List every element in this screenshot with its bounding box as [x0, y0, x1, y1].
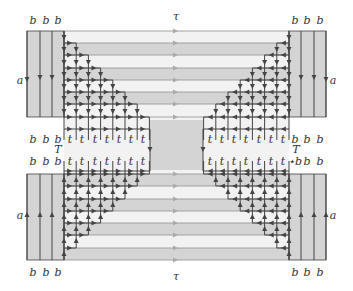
label-b: b [42, 156, 49, 167]
label-b: b [42, 134, 49, 145]
label-t: t [68, 134, 72, 145]
label-b-top: b [291, 15, 298, 26]
label-a-left-top: a [17, 75, 24, 86]
label-tau-bottom: τ [173, 271, 179, 282]
label-t: t [220, 156, 224, 167]
diagram: τ τ a a a a T T bbbbbbbbbbbbbbbbbbtttttt… [0, 0, 353, 291]
label-t: t [232, 134, 236, 145]
label-t: t [129, 134, 133, 145]
label-t: t [129, 156, 133, 167]
label-b: b [291, 134, 298, 145]
label-t: t [80, 156, 84, 167]
label-t: t [269, 134, 273, 145]
label-t: t [257, 134, 261, 145]
label-b-bottom: b [29, 267, 36, 278]
label-b-bottom: b [303, 267, 310, 278]
label-b: b [303, 134, 310, 145]
label-t: t [281, 156, 285, 167]
label-t: t [244, 156, 248, 167]
label-b: b [29, 156, 36, 167]
label-a-right-bottom: a [330, 210, 337, 221]
label-b: b [29, 134, 36, 145]
label-b-top: b [316, 15, 323, 26]
label-t: t [105, 156, 109, 167]
label-t: t [93, 156, 97, 167]
label-t: t [105, 134, 109, 145]
label-t: t [220, 134, 224, 145]
label-b-bottom: b [54, 267, 61, 278]
label-t: t [68, 156, 72, 167]
label-t: t [208, 134, 212, 145]
label-t: t [244, 134, 248, 145]
label-b: b [303, 156, 310, 167]
label-t: t [281, 134, 285, 145]
label-b: b [316, 134, 323, 145]
label-t: t [80, 134, 84, 145]
label-t: t [141, 156, 145, 167]
label-tau-top: τ [173, 11, 179, 22]
label-b-bottom: b [316, 267, 323, 278]
label-b-top: b [29, 15, 36, 26]
label-b: b [54, 134, 61, 145]
label-b-bottom: b [291, 267, 298, 278]
label-t: t [232, 156, 236, 167]
lattice-graphic [0, 0, 353, 291]
label-t: t [93, 134, 97, 145]
label-t: t [208, 156, 212, 167]
label-t: t [257, 156, 261, 167]
label-t: t [117, 156, 121, 167]
label-t: t [117, 134, 121, 145]
label-b: b [54, 156, 61, 167]
label-b-top: b [303, 15, 310, 26]
label-b-top: b [54, 15, 61, 26]
label-a-right-top: a [330, 75, 337, 86]
label-t: t [141, 134, 145, 145]
label-b-top: b [42, 15, 49, 26]
label-b-bottom: b [42, 267, 49, 278]
label-b: b [316, 156, 323, 167]
label-b: ⋆b [288, 156, 302, 167]
label-t: t [269, 156, 273, 167]
label-a-left-bottom: a [17, 210, 24, 221]
